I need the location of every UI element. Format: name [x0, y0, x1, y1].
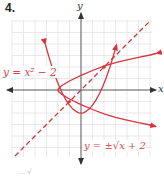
intersection-point [68, 100, 71, 103]
inverse-equation-label: y = ±√x + 2 [84, 140, 146, 152]
y-axis-label: y [77, 0, 83, 11]
x-axis-label: x [158, 83, 164, 94]
cropped-footer-text: … √ [18, 168, 46, 176]
intersection-point [102, 65, 106, 69]
parabola-equation-label: y = x² − 2 [3, 66, 57, 78]
